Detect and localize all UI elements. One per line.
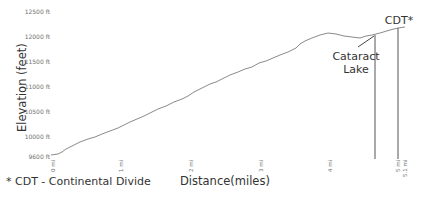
y-tick-label: 12000 ft [25, 33, 51, 40]
x-axis-title: Distance(miles) [180, 174, 270, 188]
x-tick-label: 4 mi [327, 159, 333, 172]
cataract-lake-label-2: Lake [343, 63, 369, 76]
x-tick-label: 1 mi [118, 159, 124, 172]
y-axis-title: Elevation (feet) [15, 43, 29, 132]
x-tick-label: 3 mi [258, 159, 264, 172]
x-tick-label: 2 mi [188, 159, 194, 172]
x-tick-label: 5 mi [395, 159, 401, 172]
y-tick-label: 12500 ft [25, 8, 51, 15]
x-tick-label: 5.1 mi [402, 159, 408, 177]
cdt-label: CDT* [385, 14, 414, 27]
y-tick-label: 10000 ft [25, 133, 51, 140]
footnote: * CDT - Continental Divide [6, 175, 151, 188]
x-tick-label: 0 mi [50, 159, 56, 172]
elevation-chart: 12500 ft 12000 ft 11500 ft 11000 ft 1050… [0, 0, 428, 198]
cataract-lake-label: Cataract [332, 50, 380, 63]
elevation-profile-line [51, 27, 405, 155]
y-tick-label: 9600 ft [28, 153, 50, 160]
